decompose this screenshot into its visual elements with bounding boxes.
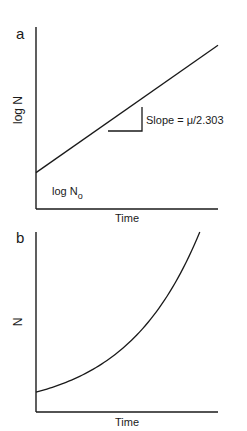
slope-label: Slope = μ/2.303 bbox=[146, 114, 224, 126]
panel-a: a log N Time Slope = μ/2.303 log No bbox=[11, 25, 224, 224]
panel-label-a: a bbox=[16, 25, 25, 42]
panel-label-b: b bbox=[16, 229, 24, 246]
y-axis-label-a: log N bbox=[11, 96, 25, 124]
panel-b: b N Time bbox=[11, 229, 218, 428]
growth-curve-b bbox=[36, 232, 200, 392]
figure: a log N Time Slope = μ/2.303 log No b N … bbox=[0, 0, 247, 431]
x-axis-label-a: Time bbox=[115, 212, 139, 224]
growth-line-a bbox=[36, 45, 218, 172]
x-axis-label-b: Time bbox=[115, 416, 139, 428]
y-axis-label-b: N bbox=[11, 318, 25, 327]
intercept-label: log No bbox=[52, 185, 83, 201]
